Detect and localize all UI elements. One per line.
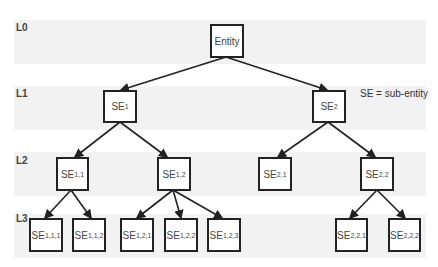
node-subscript: 1,1,1 bbox=[45, 232, 61, 239]
node-se-2-2-2: SE2,2,2 bbox=[388, 218, 421, 252]
node-se-1: SE1 bbox=[103, 90, 137, 123]
node-label: SE bbox=[320, 101, 333, 112]
node-se-2-1: SE2,1 bbox=[258, 157, 292, 191]
node-label: SE bbox=[162, 169, 175, 180]
node-label: SE bbox=[365, 169, 378, 180]
node-label: Entity bbox=[214, 36, 239, 47]
node-subscript: 2,2 bbox=[379, 171, 389, 178]
node-se-1-1-1: SE1,1,1 bbox=[29, 218, 63, 252]
node-entity: Entity bbox=[210, 24, 244, 58]
node-subscript: 2,2,2 bbox=[403, 232, 419, 239]
node-se-2-2-1: SE2,2,1 bbox=[335, 218, 368, 252]
node-label: SE bbox=[32, 230, 45, 241]
node-se-2: SE2 bbox=[312, 90, 346, 123]
node-subscript: 2,1 bbox=[277, 171, 287, 178]
node-label: SE bbox=[123, 230, 136, 241]
node-se-1-2-2: SE1,2,2 bbox=[164, 218, 198, 252]
node-subscript: 1,1 bbox=[74, 171, 84, 178]
node-label: SE bbox=[61, 169, 74, 180]
node-label: SE bbox=[390, 230, 403, 241]
node-label: SE bbox=[75, 230, 88, 241]
node-se-2-2: SE2,2 bbox=[360, 157, 394, 191]
node-subscript: 2 bbox=[334, 103, 338, 110]
node-label: SE bbox=[167, 230, 180, 241]
node-label: SE bbox=[111, 101, 124, 112]
node-se-1-1: SE1,1 bbox=[56, 157, 89, 191]
node-subscript: 1,2 bbox=[176, 171, 186, 178]
node-se-1-2-3: SE1,2,3 bbox=[207, 218, 241, 252]
node-subscript: 1,2,1 bbox=[136, 232, 152, 239]
node-se-1-1-2: SE1,1,2 bbox=[72, 218, 106, 252]
node-subscript: 2,2,1 bbox=[350, 232, 366, 239]
node-subscript: 1,1,2 bbox=[88, 232, 104, 239]
node-se-1-2: SE1,2 bbox=[157, 157, 191, 191]
node-subscript: 1,2,2 bbox=[180, 232, 196, 239]
node-subscript: 1,2,3 bbox=[223, 232, 239, 239]
node-se-1-2-1: SE1,2,1 bbox=[120, 218, 154, 252]
node-label: SE bbox=[210, 230, 223, 241]
node-subscript: 1 bbox=[125, 103, 129, 110]
node-label: SE bbox=[337, 230, 350, 241]
node-label: SE bbox=[263, 169, 276, 180]
